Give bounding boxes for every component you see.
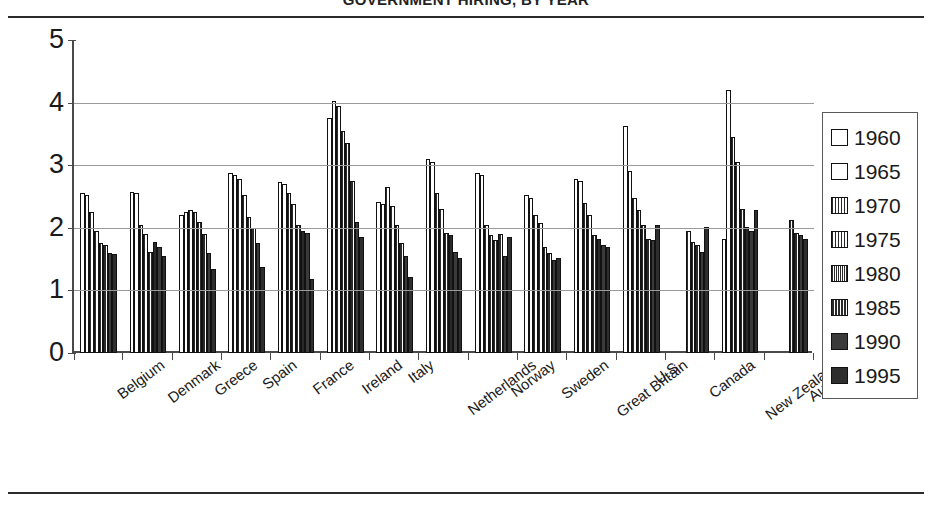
bar — [803, 239, 808, 353]
bar — [408, 277, 413, 353]
x-axis-label: Belgium — [113, 356, 167, 402]
x-axis-tick-mark — [566, 353, 567, 360]
legend-item: 1985 — [831, 290, 917, 324]
bar-group — [271, 40, 320, 353]
legend-item-label: 1975 — [854, 229, 901, 250]
bar — [655, 225, 660, 353]
x-axis-label: Canada — [705, 356, 757, 401]
legend-swatch-icon — [831, 197, 848, 214]
y-axis-tick-mark — [68, 40, 76, 41]
plot-area — [72, 40, 812, 353]
bar-group — [419, 40, 468, 353]
chart-title: GOVERNMENT HIRING, BY YEAR — [0, 0, 932, 8]
bar-group — [715, 40, 764, 353]
bar — [359, 237, 364, 353]
y-axis-tick-label: 0 — [26, 339, 64, 366]
bar — [556, 258, 561, 353]
bar — [606, 247, 611, 353]
bar-group — [173, 40, 222, 353]
legend-item: 1995 — [831, 358, 917, 392]
bar — [458, 258, 463, 353]
x-axis-label: France — [309, 356, 357, 398]
legend-item-label: 1965 — [854, 161, 901, 182]
x-axis-tick-mark — [320, 353, 321, 360]
bar-group — [617, 40, 666, 353]
legend-swatch-icon — [831, 231, 848, 248]
legend-swatch-icon — [831, 163, 848, 180]
bar-group — [74, 40, 123, 353]
bar-group — [469, 40, 518, 353]
legend-swatch-icon — [831, 299, 848, 316]
y-axis-tick-label: 3 — [26, 151, 64, 178]
x-axis-tick-mark — [517, 353, 518, 360]
page-rule-bottom — [8, 492, 924, 494]
bar-group — [518, 40, 567, 353]
legend-item-label: 1980 — [854, 263, 901, 284]
legend-swatch-icon — [831, 333, 848, 350]
bar — [507, 237, 512, 353]
bar-group — [123, 40, 172, 353]
x-axis-tick-mark — [665, 353, 666, 360]
bar — [211, 269, 216, 354]
gridline — [74, 103, 814, 104]
x-axis-tick-mark — [270, 353, 271, 360]
y-axis: 012345 — [16, 40, 64, 353]
gridline — [74, 290, 814, 291]
legend-item: 1965 — [831, 154, 917, 188]
bar-group — [222, 40, 271, 353]
legend-swatch-icon — [831, 265, 848, 282]
bar-group — [321, 40, 370, 353]
gridline — [74, 228, 814, 229]
bar-group — [567, 40, 616, 353]
x-axis-tick-mark — [616, 353, 617, 360]
y-axis-tick-label: 1 — [26, 276, 64, 303]
legend-swatch-icon — [831, 129, 848, 146]
x-axis-tick-mark — [418, 353, 419, 360]
x-axis-label: Spain — [258, 356, 299, 393]
y-axis-tick-label: 5 — [26, 26, 64, 53]
legend-swatch-icon — [831, 367, 848, 384]
x-axis-label: Ireland — [358, 356, 405, 397]
bar-group — [765, 40, 814, 353]
legend-item-label: 1960 — [854, 127, 901, 148]
x-axis-tick-mark — [714, 353, 715, 360]
bars-layer — [74, 40, 814, 353]
bar-group — [370, 40, 419, 353]
legend-item-label: 1995 — [854, 365, 901, 386]
y-axis-tick-mark — [68, 353, 76, 354]
legend-item: 1970 — [831, 188, 917, 222]
x-axis-label: Italy — [404, 356, 436, 386]
bar — [260, 267, 265, 353]
x-axis-label: Sweden — [557, 356, 611, 402]
legend-item: 1980 — [831, 256, 917, 290]
x-axis-tick-mark — [813, 353, 814, 360]
x-axis-tick-mark — [74, 353, 75, 360]
legend-item: 1960 — [831, 120, 917, 154]
chart-page: GOVERNMENT HIRING, BY YEAR 012345 Belgiu… — [0, 0, 932, 520]
bar — [754, 210, 759, 353]
legend-item: 1975 — [831, 222, 917, 256]
x-axis-tick-mark — [764, 353, 765, 360]
bar — [162, 256, 167, 353]
page-rule-top — [8, 16, 924, 18]
y-axis-tick-label: 4 — [26, 89, 64, 116]
x-axis-tick-mark — [221, 353, 222, 360]
x-axis-tick-mark — [122, 353, 123, 360]
legend-item-label: 1985 — [854, 297, 901, 318]
legend-item: 1990 — [831, 324, 917, 358]
legend-item-label: 1990 — [854, 331, 901, 352]
gridline — [74, 165, 814, 166]
x-axis-tick-mark — [172, 353, 173, 360]
y-axis-tick-label: 2 — [26, 214, 64, 241]
legend-item-label: 1970 — [854, 195, 901, 216]
legend: 19601965197019751980198519901995 — [822, 112, 918, 399]
x-axis-label: Denmark — [164, 356, 223, 406]
bar-group — [666, 40, 715, 353]
x-axis-tick-mark — [468, 353, 469, 360]
bar — [112, 254, 117, 353]
x-axis-tick-mark — [369, 353, 370, 360]
